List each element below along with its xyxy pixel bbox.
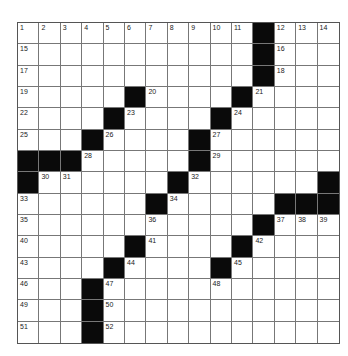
answer-square[interactable]: [104, 66, 125, 87]
answer-square[interactable]: [211, 215, 232, 236]
answer-square[interactable]: [82, 236, 103, 257]
answer-square[interactable]: [211, 44, 232, 65]
answer-square[interactable]: [39, 130, 60, 151]
answer-square[interactable]: 39: [318, 215, 339, 236]
answer-square[interactable]: 32: [189, 172, 210, 193]
answer-square[interactable]: [39, 215, 60, 236]
answer-square[interactable]: 40: [18, 236, 39, 257]
answer-square[interactable]: 14: [318, 23, 339, 44]
answer-square[interactable]: [146, 130, 167, 151]
answer-square[interactable]: [168, 279, 189, 300]
answer-square[interactable]: [61, 87, 82, 108]
answer-square[interactable]: [296, 87, 317, 108]
answer-square[interactable]: 45: [232, 258, 253, 279]
answer-square[interactable]: [104, 151, 125, 172]
answer-square[interactable]: [232, 151, 253, 172]
answer-square[interactable]: 23: [125, 108, 146, 129]
answer-square[interactable]: [318, 322, 339, 343]
answer-square[interactable]: [168, 66, 189, 87]
answer-square[interactable]: [168, 151, 189, 172]
answer-square[interactable]: 16: [275, 44, 296, 65]
answer-square[interactable]: 36: [146, 215, 167, 236]
answer-square[interactable]: [296, 236, 317, 257]
answer-square[interactable]: [189, 215, 210, 236]
answer-square[interactable]: [211, 87, 232, 108]
answer-square[interactable]: [296, 130, 317, 151]
answer-square[interactable]: [168, 322, 189, 343]
answer-square[interactable]: [146, 44, 167, 65]
answer-square[interactable]: [189, 87, 210, 108]
answer-square[interactable]: [275, 87, 296, 108]
answer-square[interactable]: [318, 279, 339, 300]
answer-square[interactable]: 8: [168, 23, 189, 44]
answer-square[interactable]: [61, 130, 82, 151]
answer-square[interactable]: [104, 172, 125, 193]
answer-square[interactable]: [146, 300, 167, 321]
answer-square[interactable]: [211, 300, 232, 321]
answer-square[interactable]: [125, 130, 146, 151]
answer-square[interactable]: [82, 87, 103, 108]
answer-square[interactable]: [189, 194, 210, 215]
answer-square[interactable]: [168, 215, 189, 236]
answer-square[interactable]: 50: [104, 300, 125, 321]
answer-square[interactable]: [82, 66, 103, 87]
answer-square[interactable]: [189, 279, 210, 300]
answer-square[interactable]: [275, 322, 296, 343]
answer-square[interactable]: 42: [253, 236, 274, 257]
answer-square[interactable]: [275, 279, 296, 300]
answer-square[interactable]: [296, 151, 317, 172]
answer-square[interactable]: [82, 215, 103, 236]
answer-square[interactable]: [39, 87, 60, 108]
answer-square[interactable]: [61, 108, 82, 129]
answer-square[interactable]: 12: [275, 23, 296, 44]
answer-square[interactable]: 22: [18, 108, 39, 129]
answer-square[interactable]: 46: [18, 279, 39, 300]
answer-square[interactable]: 17: [18, 66, 39, 87]
answer-square[interactable]: [61, 194, 82, 215]
answer-square[interactable]: [146, 66, 167, 87]
answer-square[interactable]: [146, 108, 167, 129]
answer-square[interactable]: [39, 300, 60, 321]
answer-square[interactable]: [296, 300, 317, 321]
answer-square[interactable]: [318, 87, 339, 108]
answer-square[interactable]: [61, 300, 82, 321]
answer-square[interactable]: [232, 279, 253, 300]
answer-square[interactable]: [253, 194, 274, 215]
answer-square[interactable]: [232, 130, 253, 151]
answer-square[interactable]: 13: [296, 23, 317, 44]
answer-square[interactable]: 4: [82, 23, 103, 44]
answer-square[interactable]: [61, 322, 82, 343]
answer-square[interactable]: [232, 300, 253, 321]
answer-square[interactable]: [253, 151, 274, 172]
answer-square[interactable]: 20: [146, 87, 167, 108]
answer-square[interactable]: [104, 236, 125, 257]
answer-square[interactable]: [125, 194, 146, 215]
answer-square[interactable]: [318, 300, 339, 321]
answer-square[interactable]: 18: [275, 66, 296, 87]
answer-square[interactable]: [82, 108, 103, 129]
answer-square[interactable]: 10: [211, 23, 232, 44]
answer-square[interactable]: [61, 258, 82, 279]
answer-square[interactable]: [146, 279, 167, 300]
answer-square[interactable]: [296, 66, 317, 87]
answer-square[interactable]: 51: [18, 322, 39, 343]
answer-square[interactable]: [125, 279, 146, 300]
answer-square[interactable]: [61, 66, 82, 87]
answer-square[interactable]: [125, 66, 146, 87]
answer-square[interactable]: [253, 258, 274, 279]
answer-square[interactable]: [275, 258, 296, 279]
answer-square[interactable]: [275, 236, 296, 257]
answer-square[interactable]: 11: [232, 23, 253, 44]
answer-square[interactable]: [168, 44, 189, 65]
answer-square[interactable]: [61, 44, 82, 65]
answer-square[interactable]: [189, 44, 210, 65]
answer-square[interactable]: [39, 322, 60, 343]
answer-square[interactable]: [125, 151, 146, 172]
answer-square[interactable]: 30: [39, 172, 60, 193]
answer-square[interactable]: [39, 236, 60, 257]
answer-square[interactable]: 43: [18, 258, 39, 279]
answer-square[interactable]: [146, 322, 167, 343]
answer-square[interactable]: [275, 172, 296, 193]
answer-square[interactable]: [296, 108, 317, 129]
answer-square[interactable]: 9: [189, 23, 210, 44]
